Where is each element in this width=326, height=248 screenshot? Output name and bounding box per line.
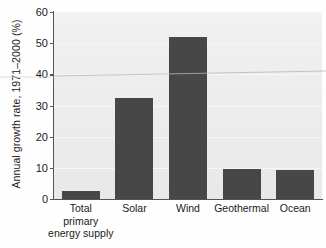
- bar: [276, 170, 314, 199]
- y-tick-label: 40: [36, 68, 48, 80]
- bar: [62, 191, 100, 199]
- y-tick-label: 20: [36, 131, 48, 143]
- x-axis-line: [53, 199, 323, 200]
- y-tick-mark: [50, 137, 54, 138]
- plot-area: 0102030405060: [54, 12, 322, 199]
- y-tick-mark: [50, 168, 54, 169]
- y-tick-label: 50: [36, 37, 48, 49]
- y-tick-mark: [50, 106, 54, 107]
- bar: [169, 37, 207, 199]
- y-tick-mark: [50, 12, 54, 13]
- chart-figure: Annual growth rate, 1971–2000 (%) 010203…: [0, 0, 326, 248]
- bar: [223, 169, 261, 199]
- y-tick-label: 30: [36, 100, 48, 112]
- y-tick-label: 60: [36, 6, 48, 18]
- bar: [115, 98, 153, 199]
- x-tick-label: Ocean: [242, 202, 326, 215]
- y-tick-mark: [50, 199, 54, 200]
- gridline: [54, 12, 322, 13]
- y-tick-label: 10: [36, 162, 48, 174]
- y-tick-mark: [50, 74, 54, 75]
- y-tick-mark: [50, 43, 54, 44]
- y-axis-title: Annual growth rate, 1971–2000 (%): [10, 4, 22, 204]
